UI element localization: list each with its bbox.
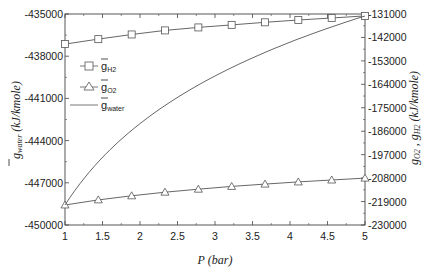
svg-text:-438000: -438000 [24,50,63,62]
svg-text:-230000: -230000 [368,219,407,231]
left-axis-title: gwater (kJ/kmole) [9,81,24,166]
svg-text:-164000: -164000 [368,78,407,90]
svg-text:-447000: -447000 [24,177,63,189]
square-marker-icon [62,41,69,48]
svg-text:1: 1 [62,230,68,242]
svg-text:4.5: 4.5 [320,230,335,242]
svg-text:-175000: -175000 [368,102,407,114]
svg-text:gO2: gO2 [101,81,117,94]
square-marker-icon [328,15,335,22]
legend-item-o2: gO2 [80,80,117,94]
plot-frame [65,14,365,225]
legend: gH2 gO2 gwater [70,59,125,112]
svg-text:-441000: -441000 [24,92,63,104]
svg-text:-142000: -142000 [368,31,407,43]
svg-text:3.5: 3.5 [245,230,260,242]
chart: 11.522.533.544.55 -435000-438000-441000-… [0,0,430,272]
right-axis-title: gO2 , gH2 (kJ/kmole) [407,71,422,165]
x-axis-title: P (bar) [197,253,233,267]
svg-text:gH2: gH2 [101,60,116,73]
svg-text:gwater: gwater [101,99,125,112]
x-axis-ticks: 11.522.533.544.55 [62,14,368,242]
triangle-marker-icon [84,82,94,90]
svg-text:-131000: -131000 [368,8,407,20]
square-marker-icon [228,21,235,28]
svg-text:-186000: -186000 [368,125,407,137]
square-marker-icon [85,62,93,70]
svg-text:2: 2 [137,230,143,242]
svg-text:-444000: -444000 [24,135,63,147]
svg-text:-197000: -197000 [368,149,407,161]
legend-item-h2: gH2 [80,59,116,73]
square-marker-icon [262,19,269,26]
svg-text:5: 5 [362,230,368,242]
square-marker-icon [95,36,102,43]
svg-text:-219000: -219000 [368,196,407,208]
legend-item-water: gwater [70,98,125,112]
svg-text:3: 3 [212,230,218,242]
svg-text:1.5: 1.5 [95,230,110,242]
svg-text:gO2 , gH2 (kJ/kmole): gO2 , gH2 (kJ/kmole) [407,71,422,165]
square-marker-icon [362,12,369,19]
square-marker-icon [195,24,202,31]
svg-text:2.5: 2.5 [170,230,185,242]
svg-text:-153000: -153000 [368,55,407,67]
svg-text:gwater (kJ/kmole): gwater (kJ/kmole) [9,81,24,159]
svg-text:-450000: -450000 [24,219,63,231]
square-marker-icon [161,27,168,34]
svg-text:-208000: -208000 [368,172,407,184]
svg-text:-435000: -435000 [24,8,63,20]
svg-text:4: 4 [287,230,293,242]
square-marker-icon [295,16,302,23]
right-y-axis-ticks: -131000-142000-153000-164000-175000-1860… [361,8,407,231]
square-marker-icon [128,31,135,38]
